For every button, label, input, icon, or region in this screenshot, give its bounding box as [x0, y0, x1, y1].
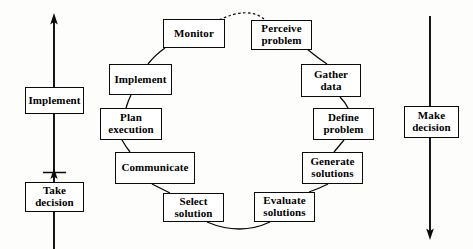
node-take-decision[interactable]: Take decision: [25, 182, 84, 212]
decision-cycle-diagram: Monitor Perceive problem Gather data Def…: [0, 0, 473, 249]
connector-gather-to-define: [340, 97, 348, 108]
node-monitor[interactable]: Monitor: [163, 19, 225, 48]
node-evaluate-solutions[interactable]: Evaluate solutions: [254, 192, 315, 222]
connector-generate-to-evaluate: [309, 184, 328, 192]
connector-implement-to-monitor: [148, 48, 165, 64]
node-perceive-problem[interactable]: Perceive problem: [251, 20, 312, 50]
connector-monitor-to-perceive: [219, 13, 264, 20]
node-implement-cycle[interactable]: Implement: [109, 64, 172, 95]
node-make-decision[interactable]: Make decision: [404, 106, 459, 138]
node-implement-rail[interactable]: Implement: [25, 87, 84, 114]
node-generate-solutions[interactable]: Generate solutions: [302, 152, 363, 184]
connector-define-to-generate: [334, 140, 344, 152]
node-define-problem[interactable]: Define problem: [313, 108, 374, 140]
node-gather-data[interactable]: Gather data: [301, 64, 361, 97]
node-plan-execution[interactable]: Plan execution: [100, 108, 162, 140]
node-communicate[interactable]: Communicate: [115, 152, 195, 184]
connector-plan-to-implement: [126, 95, 131, 108]
connector-select-to-communicate: [152, 184, 170, 193]
connector-perceive-to-gather: [307, 49, 327, 64]
node-select-solution[interactable]: Select solution: [163, 193, 224, 222]
connector-communicate-to-plan: [122, 140, 130, 152]
connector-evaluate-to-select: [207, 222, 270, 229]
